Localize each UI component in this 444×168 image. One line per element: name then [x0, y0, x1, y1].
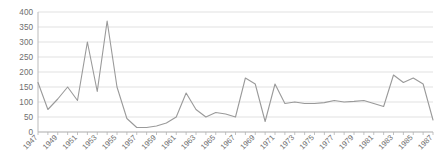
- y-tick-label: 150: [19, 83, 33, 92]
- x-tick-label: 1965: [199, 133, 217, 151]
- x-tick-label: 1953: [80, 133, 98, 151]
- y-tick-label: 400: [19, 8, 33, 17]
- gridlines: [38, 12, 433, 132]
- x-tick-label: 1983: [377, 133, 395, 151]
- x-tick-label: 1951: [61, 133, 79, 151]
- x-tick-label: 1955: [100, 133, 118, 151]
- x-tick-label: 1987: [416, 133, 434, 151]
- x-tick-label: 1967: [219, 133, 237, 151]
- x-tick-label: 1959: [140, 133, 158, 151]
- x-tick-label: 1969: [238, 133, 256, 151]
- chart-canvas: 050100150200250300350400 194719491951195…: [0, 0, 444, 168]
- x-tick-label: 1973: [278, 133, 296, 151]
- y-tick-label: 350: [19, 23, 33, 32]
- x-tick-label: 1977: [317, 133, 335, 151]
- x-tick-label: 1961: [159, 133, 177, 151]
- x-tick-label: 1963: [179, 133, 197, 151]
- x-tick-label: 1947: [21, 133, 39, 151]
- x-tick-label: 1981: [357, 133, 375, 151]
- x-tick-label: 1957: [120, 133, 138, 151]
- x-tick-label: 1949: [41, 133, 59, 151]
- y-tick-label: 250: [19, 53, 33, 62]
- data-series-line: [38, 21, 433, 128]
- x-tick-label: 1985: [396, 133, 414, 151]
- x-axis-tick-labels: 1947194919511953195519571959196119631965…: [21, 133, 434, 151]
- chart-container: 050100150200250300350400 194719491951195…: [0, 0, 444, 168]
- y-tick-label: 200: [19, 68, 33, 77]
- series-1-line: [38, 21, 433, 128]
- y-tick-label: 50: [24, 113, 34, 122]
- x-tick-label: 1975: [298, 133, 316, 151]
- y-axis-tick-labels: 050100150200250300350400: [19, 8, 33, 137]
- x-axis-tick-marks: [38, 132, 433, 135]
- y-tick-label: 100: [19, 98, 33, 107]
- x-tick-label: 1979: [337, 133, 355, 151]
- x-tick-label: 1971: [258, 133, 276, 151]
- y-tick-label: 300: [19, 38, 33, 47]
- line-chart: 050100150200250300350400 194719491951195…: [0, 0, 444, 168]
